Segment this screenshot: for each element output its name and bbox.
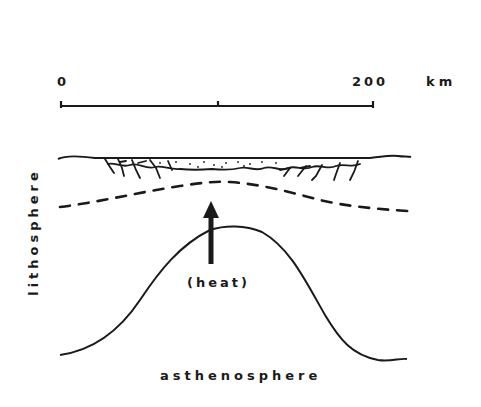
lithosphere-label: lithosphere [26,168,41,296]
surface-line [58,156,411,159]
rift-basin [105,159,360,180]
scale-bar [61,101,373,108]
diagram-canvas [0,0,481,407]
crust-mantle-boundary [60,182,408,211]
lithosphere-asthenosphere-boundary [60,226,407,360]
scale-unit-label: km [426,74,456,89]
sediment-stipple [159,161,277,168]
asthenosphere-label: asthenosphere [160,368,321,383]
scale-end-label: 200 [352,74,388,89]
heat-label: (heat) [187,275,250,290]
scale-start-label: 0 [57,74,69,89]
